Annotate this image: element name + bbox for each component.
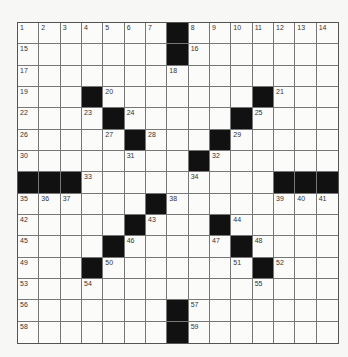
grid-cell[interactable] (210, 279, 231, 300)
grid-cell[interactable] (317, 300, 338, 321)
grid-cell[interactable]: 4 (82, 23, 103, 44)
grid-cell[interactable] (274, 300, 295, 321)
grid-cell[interactable]: 25 (253, 108, 274, 129)
grid-cell[interactable]: 20 (103, 87, 124, 108)
grid-cell[interactable] (103, 44, 124, 65)
grid-cell[interactable]: 2 (39, 23, 60, 44)
grid-cell[interactable] (274, 151, 295, 172)
grid-cell[interactable] (210, 258, 231, 279)
grid-cell[interactable] (189, 130, 210, 151)
grid-cell[interactable]: 48 (253, 236, 274, 257)
grid-cell[interactable] (103, 300, 124, 321)
grid-cell[interactable] (61, 215, 82, 236)
grid-cell[interactable] (103, 215, 124, 236)
grid-cell[interactable] (167, 130, 188, 151)
grid-cell[interactable] (82, 151, 103, 172)
grid-cell[interactable] (274, 236, 295, 257)
grid-cell[interactable] (295, 151, 316, 172)
grid-cell[interactable] (231, 87, 252, 108)
grid-cell[interactable] (253, 66, 274, 87)
grid-cell[interactable]: 26 (18, 130, 39, 151)
grid-cell[interactable] (231, 172, 252, 193)
grid-cell[interactable] (295, 44, 316, 65)
grid-cell[interactable] (274, 279, 295, 300)
grid-cell[interactable] (82, 322, 103, 343)
grid-cell[interactable] (125, 87, 146, 108)
grid-cell[interactable] (103, 172, 124, 193)
grid-cell[interactable] (82, 130, 103, 151)
grid-cell[interactable] (210, 322, 231, 343)
grid-cell[interactable]: 35 (18, 194, 39, 215)
grid-cell[interactable] (39, 108, 60, 129)
grid-cell[interactable] (253, 172, 274, 193)
grid-cell[interactable]: 1 (18, 23, 39, 44)
grid-cell[interactable] (317, 44, 338, 65)
grid-cell[interactable] (146, 172, 167, 193)
grid-cell[interactable]: 7 (146, 23, 167, 44)
grid-cell[interactable]: 43 (146, 215, 167, 236)
grid-cell[interactable] (231, 66, 252, 87)
grid-cell[interactable] (231, 279, 252, 300)
grid-cell[interactable] (317, 236, 338, 257)
grid-cell[interactable] (61, 322, 82, 343)
grid-cell[interactable] (210, 87, 231, 108)
grid-cell[interactable]: 13 (295, 23, 316, 44)
grid-cell[interactable]: 32 (210, 151, 231, 172)
grid-cell[interactable] (61, 236, 82, 257)
grid-cell[interactable] (82, 66, 103, 87)
grid-cell[interactable] (146, 108, 167, 129)
grid-cell[interactable] (146, 44, 167, 65)
grid-cell[interactable] (61, 130, 82, 151)
grid-cell[interactable] (146, 151, 167, 172)
grid-cell[interactable]: 50 (103, 258, 124, 279)
grid-cell[interactable] (231, 151, 252, 172)
grid-cell[interactable] (39, 279, 60, 300)
grid-cell[interactable] (125, 44, 146, 65)
grid-cell[interactable] (253, 300, 274, 321)
grid-cell[interactable] (189, 258, 210, 279)
grid-cell[interactable] (103, 194, 124, 215)
grid-cell[interactable] (82, 215, 103, 236)
grid-cell[interactable]: 30 (18, 151, 39, 172)
grid-cell[interactable]: 56 (18, 300, 39, 321)
grid-cell[interactable] (125, 258, 146, 279)
grid-cell[interactable] (317, 151, 338, 172)
grid-cell[interactable]: 8 (189, 23, 210, 44)
grid-cell[interactable] (189, 66, 210, 87)
grid-cell[interactable] (189, 194, 210, 215)
grid-cell[interactable] (167, 215, 188, 236)
grid-cell[interactable]: 52 (274, 258, 295, 279)
grid-cell[interactable]: 17 (18, 66, 39, 87)
grid-cell[interactable] (39, 258, 60, 279)
grid-cell[interactable]: 38 (167, 194, 188, 215)
grid-cell[interactable] (39, 322, 60, 343)
grid-cell[interactable] (253, 322, 274, 343)
grid-cell[interactable] (61, 151, 82, 172)
grid-cell[interactable] (210, 44, 231, 65)
grid-cell[interactable]: 24 (125, 108, 146, 129)
grid-cell[interactable] (274, 130, 295, 151)
grid-cell[interactable] (125, 172, 146, 193)
grid-cell[interactable] (146, 66, 167, 87)
grid-cell[interactable] (39, 236, 60, 257)
grid-cell[interactable] (103, 279, 124, 300)
grid-cell[interactable] (317, 130, 338, 151)
grid-cell[interactable] (39, 44, 60, 65)
grid-cell[interactable] (167, 87, 188, 108)
grid-cell[interactable] (317, 108, 338, 129)
grid-cell[interactable]: 39 (274, 194, 295, 215)
grid-cell[interactable] (317, 322, 338, 343)
grid-cell[interactable] (210, 172, 231, 193)
grid-cell[interactable]: 40 (295, 194, 316, 215)
grid-cell[interactable]: 57 (189, 300, 210, 321)
grid-cell[interactable] (231, 322, 252, 343)
grid-cell[interactable] (189, 87, 210, 108)
grid-cell[interactable] (317, 87, 338, 108)
grid-cell[interactable] (253, 130, 274, 151)
grid-cell[interactable]: 9 (210, 23, 231, 44)
grid-cell[interactable] (146, 236, 167, 257)
grid-cell[interactable] (167, 172, 188, 193)
grid-cell[interactable]: 14 (317, 23, 338, 44)
grid-cell[interactable] (274, 322, 295, 343)
grid-cell[interactable] (253, 194, 274, 215)
